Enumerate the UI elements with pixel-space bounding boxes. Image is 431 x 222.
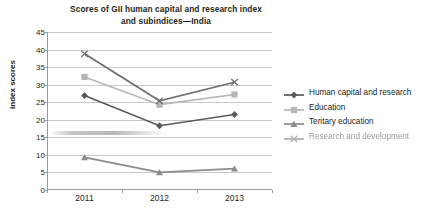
plot-area: [47, 32, 272, 190]
chart-legend: Human capital and researchEducationTerit…: [283, 86, 431, 144]
legend-item-label: Education: [309, 103, 345, 113]
y-tick-label: 25: [23, 98, 45, 107]
data-point-marker: [81, 51, 87, 57]
y-tick-label: 10: [23, 150, 45, 159]
chart-title: Scores of GII human capital and research…: [40, 4, 292, 27]
legend-item[interactable]: Teritary education: [283, 115, 431, 130]
y-tick-label: 40: [23, 45, 45, 54]
data-point-marker: [156, 122, 163, 129]
triangle-marker-icon: [283, 116, 305, 128]
series-4: [81, 51, 237, 104]
line-chart: Scores of GII human capital and research…: [0, 0, 431, 222]
y-tick-label: 20: [23, 115, 45, 124]
x-tick-label: 2011: [63, 192, 107, 204]
chart-title-line-2: and subindices—India: [40, 16, 292, 28]
x-tick-mark: [272, 190, 273, 193]
scan-smudge-artifact: [50, 131, 168, 135]
legend-item-label: Teritary education: [309, 117, 374, 127]
data-point-marker: [231, 91, 237, 97]
series-3: [81, 154, 238, 175]
legend-item-label: Research and development: [309, 132, 409, 142]
data-point-marker: [81, 92, 88, 99]
series-line: [85, 54, 235, 101]
x-tick-label: 2013: [213, 192, 257, 204]
x-axis-tick-labels: 201120122013: [47, 192, 272, 206]
x-tick-label: 2012: [138, 192, 182, 204]
legend-item[interactable]: Education: [283, 101, 431, 116]
series-plot: [47, 32, 272, 190]
y-tick-label: 30: [23, 80, 45, 89]
y-axis-tick-labels: 051015202530354045: [21, 32, 45, 190]
legend-item-label: Human capital and research: [309, 88, 411, 98]
y-tick-label: 15: [23, 133, 45, 142]
y-axis-title: index scores: [8, 55, 17, 115]
y-tick-label: 45: [23, 28, 45, 37]
data-point-marker: [81, 74, 87, 80]
square-marker-icon: [283, 102, 305, 114]
y-tick-label: 0: [23, 186, 45, 195]
chart-title-line-1: Scores of GII human capital and research…: [40, 4, 292, 16]
x-marker-icon: [283, 131, 305, 143]
legend-item[interactable]: Human capital and research: [283, 86, 431, 101]
y-tick-label: 5: [23, 168, 45, 177]
series-2: [81, 74, 237, 108]
y-tick-label: 35: [23, 63, 45, 72]
legend-item[interactable]: Research and development: [283, 130, 431, 145]
diamond-marker-icon: [283, 87, 305, 99]
data-point-marker: [231, 111, 238, 118]
